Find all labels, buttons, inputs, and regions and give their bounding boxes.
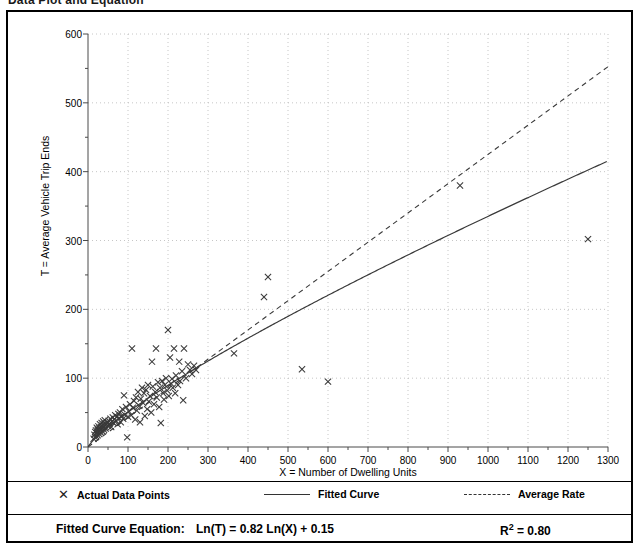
y-tick-label: 100 — [58, 373, 82, 384]
legend-divider-top — [8, 481, 631, 482]
x-tick-label: 1100 — [517, 455, 539, 466]
x-tick-label: 1300 — [597, 455, 619, 466]
x-tick-label: 900 — [440, 455, 457, 466]
equation-text: Ln(T) = 0.82 Ln(X) + 0.15 — [196, 522, 334, 536]
grid-lines — [88, 34, 608, 447]
legend-label: Fitted Curve — [318, 488, 379, 500]
data-points — [91, 182, 592, 442]
x-tick-label: 400 — [240, 455, 257, 466]
fitted-curve-line — [88, 162, 606, 447]
r-squared-value: = 0.80 — [517, 524, 551, 538]
x-tick-label: 300 — [200, 455, 217, 466]
legend-item-fitted-curve: Fitted Curve — [264, 488, 379, 500]
dashed-line-icon — [464, 494, 510, 495]
y-tick-label: 300 — [58, 235, 82, 246]
y-tick-label: 400 — [58, 166, 82, 177]
legend-item-actual-data-points: ✕ Actual Data Points — [58, 488, 170, 501]
x-tick-label: 1200 — [557, 455, 579, 466]
x-tick-label: 0 — [85, 455, 91, 466]
legend-item-average-rate: Average Rate — [464, 488, 585, 500]
legend-label: Actual Data Points — [77, 489, 170, 501]
chart-legend: ✕ Actual Data Points Fitted Curve Averag… — [0, 486, 641, 512]
chart-page: Data Plot and Equation T = Average Vehic… — [0, 0, 641, 552]
x-axis-title: X = Number of Dwelling Units — [88, 466, 608, 478]
x-tick-label: 500 — [280, 455, 297, 466]
x-tick-label: 600 — [320, 455, 337, 466]
r-squared: R2 = 0.80 — [500, 522, 551, 538]
x-tick-label: 800 — [400, 455, 417, 466]
y-tick-label: 500 — [58, 97, 82, 108]
y-tick-label: 0 — [58, 442, 82, 453]
legend-label: Average Rate — [518, 488, 585, 500]
x-tick-label: 1000 — [477, 455, 499, 466]
r-squared-label: R — [500, 524, 509, 538]
y-tick-label: 600 — [58, 29, 82, 40]
y-axis-title: T = Average Vehicle Trip Ends — [39, 96, 51, 316]
equation-row: Fitted Curve Equation: Ln(T) = 0.82 Ln(X… — [0, 519, 641, 543]
legend-divider-bottom — [8, 514, 631, 515]
r-squared-exponent: 2 — [509, 522, 514, 532]
x-tick-label: 200 — [160, 455, 177, 466]
y-tick-label: 200 — [58, 304, 82, 315]
solid-line-icon — [264, 494, 310, 495]
equation-label: Fitted Curve Equation: — [56, 522, 185, 536]
x-tick-label: 100 — [120, 455, 137, 466]
x-tick-label: 700 — [360, 455, 377, 466]
x-marker-icon: ✕ — [58, 488, 69, 501]
